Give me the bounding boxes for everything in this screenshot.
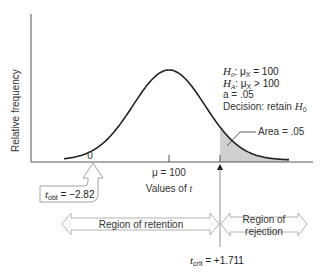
alpha-level: a = .05 — [223, 89, 254, 100]
region-of-rejection-label-1: Region of — [243, 214, 286, 225]
tick-label-mu: μ = 100 — [152, 167, 186, 178]
t-crit-label: tcrit = +1.711 — [190, 254, 244, 267]
y-axis-label: Relative frequency — [10, 69, 21, 152]
region-of-retention-label: Region of retention — [99, 219, 184, 230]
diagram: Relative frequency 0 μ = 100 Values of t… — [0, 0, 326, 276]
decision-statement: Decision: retain H0 — [223, 100, 307, 113]
region-of-rejection-label-2: rejection — [245, 226, 283, 237]
hypotheses-block: H0: μX = 100 HA: μX > 100 a = .05 Decisi… — [222, 65, 307, 113]
area-label: Area = .05 — [258, 126, 305, 137]
x-axis-label: Values of t — [146, 183, 193, 194]
tick-label-zero: 0 — [87, 150, 93, 161]
